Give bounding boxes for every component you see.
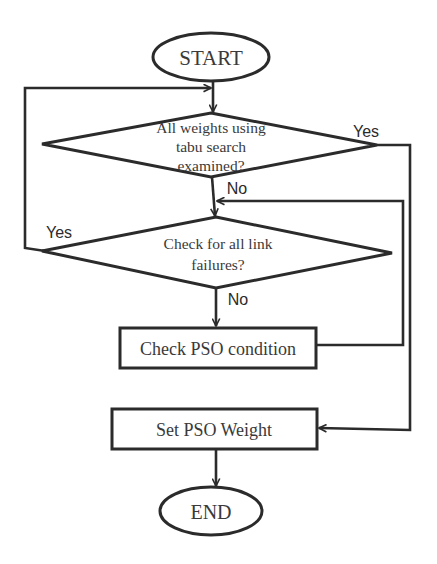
process2-label: Set PSO Weight [156, 420, 272, 440]
decision1-line2: tabu search [176, 138, 246, 155]
decision1-no-label: No [227, 180, 248, 197]
decision1-node: All weights using tabu search examined? [42, 113, 377, 177]
end-node: END [160, 487, 262, 535]
decision1-line3: examined? [177, 157, 244, 174]
decision2-line2: failures? [191, 256, 244, 273]
process1-label: Check PSO condition [140, 339, 296, 359]
decision1-yes-label: Yes [353, 123, 379, 140]
decision2-no-label: No [228, 291, 249, 308]
process1-node: Check PSO condition [120, 328, 316, 368]
flowchart: START All weights using tabu search exam… [0, 0, 437, 564]
decision2-node: Check for all link failures? [42, 217, 392, 288]
decision2-yes-label: Yes [46, 224, 72, 241]
start-node: START [153, 33, 269, 81]
process2-node: Set PSO Weight [112, 409, 317, 449]
decision2-line1: Check for all link [164, 235, 273, 252]
edge-decision1-no [212, 177, 215, 216]
start-label: START [179, 46, 243, 70]
end-label: END [190, 501, 231, 523]
edge-decision1-yes [319, 145, 410, 430]
decision1-line1: All weights using [156, 119, 266, 136]
